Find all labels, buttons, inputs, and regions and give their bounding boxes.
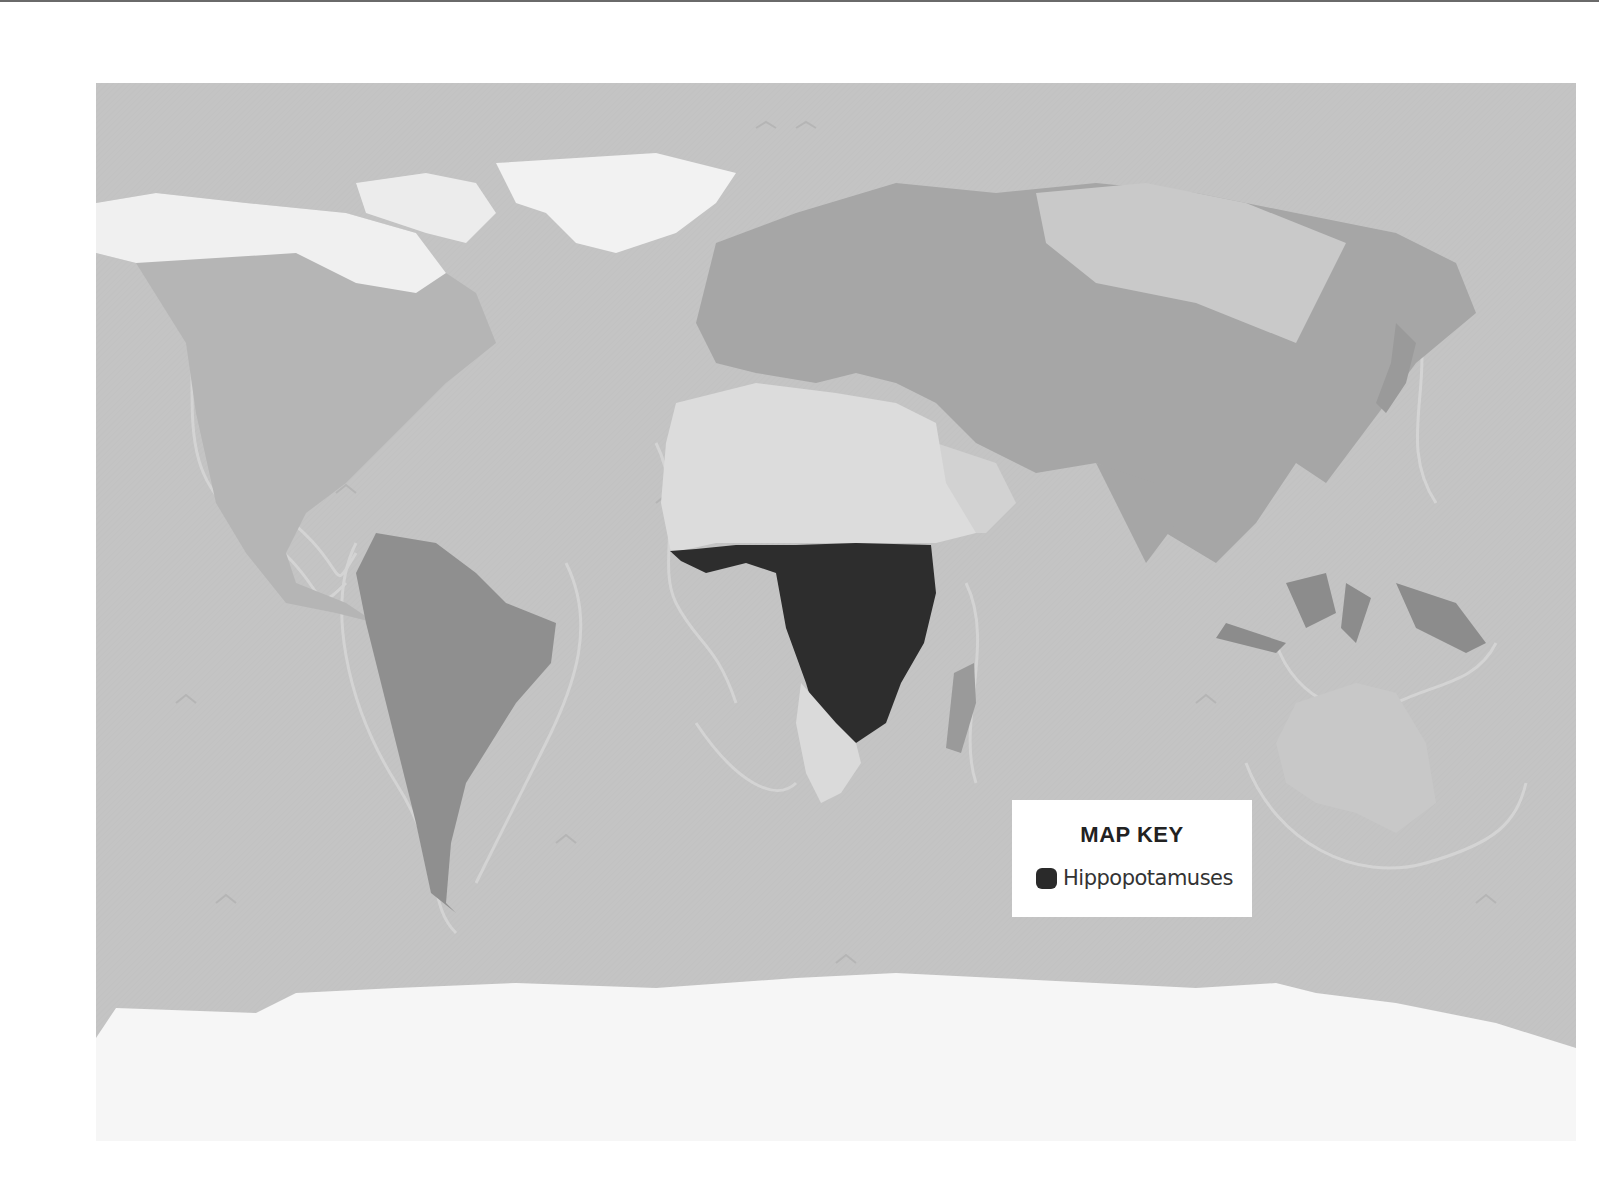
antarctica	[96, 973, 1576, 1141]
legend-item-hippopotamuses: Hippopotamuses	[1036, 866, 1233, 890]
map-canvas	[96, 83, 1576, 1141]
legend-label: Hippopotamuses	[1063, 866, 1233, 890]
world-map	[96, 83, 1576, 1141]
top-border-line	[0, 0, 1599, 2]
map-key: MAP KEY Hippopotamuses	[1012, 800, 1252, 917]
hippo-swatch-icon	[1036, 868, 1057, 889]
map-key-title: MAP KEY	[1012, 822, 1252, 848]
